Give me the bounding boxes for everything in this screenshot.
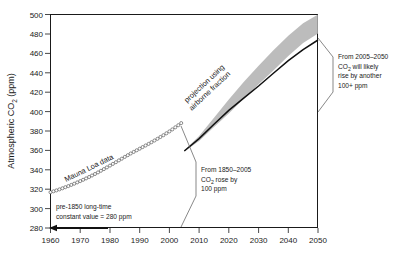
y-tick-label-440: 440	[30, 69, 44, 78]
middle-callout-line3: 100 ppm	[201, 185, 227, 193]
baseline-callout-line1: pre-1850 long-time	[56, 203, 112, 211]
y-axis-title-pre: Atmospheric CO	[6, 103, 16, 169]
y-axis-title-post: (ppm)	[6, 73, 16, 99]
y-tick-label-400: 400	[30, 108, 44, 117]
y-tick-label-420: 420	[30, 88, 44, 97]
y-tick-label-300: 300	[30, 205, 44, 214]
x-tick-label-2040: 2040	[279, 236, 297, 245]
right-callout-line4: 100+ ppm	[338, 82, 368, 90]
x-tick-label-1980: 1980	[101, 236, 119, 245]
middle-callout-line1: From 1850–2005	[201, 166, 252, 173]
y-tick-label-360: 360	[30, 146, 44, 155]
right-callout-line2-post: will likely	[351, 63, 379, 71]
y-tick-label-340: 340	[30, 166, 44, 175]
baseline-callout-line2: constant value = 280 ppm	[56, 213, 132, 221]
y-tick-label-460: 460	[30, 49, 44, 58]
y-axis-title: Atmospheric CO2 (ppm)	[6, 73, 18, 169]
y-tick-label-320: 320	[30, 185, 44, 194]
co2-projection-chart: 500 480 460 440 420 400 380 360 340 320 …	[0, 0, 402, 257]
right-callout-line1: From 2005–2050	[338, 53, 389, 60]
middle-callout-line2-post: rose by	[214, 176, 238, 184]
y-tick-label-280: 280	[30, 224, 44, 233]
x-tick-label-2030: 2030	[250, 236, 268, 245]
y-tick-label-480: 480	[30, 30, 44, 39]
mauna-loa-transition-markers	[183, 150, 186, 153]
middle-callout-line2-pre: CO	[201, 176, 211, 183]
x-tick-label-2010: 2010	[190, 236, 208, 245]
y-tick-label-380: 380	[30, 127, 44, 136]
right-callout-line2-pre: CO	[338, 63, 348, 70]
svg-text:Atmospheric CO2 (ppm): Atmospheric CO2 (ppm)	[6, 73, 18, 169]
y-tick-label-500: 500	[30, 11, 44, 20]
right-callout-line3: rise by another	[338, 72, 382, 80]
x-tick-label-2000: 2000	[161, 236, 179, 245]
x-tick-label-2020: 2020	[220, 236, 238, 245]
x-tick-label-1970: 1970	[71, 236, 89, 245]
x-tick-label-1990: 1990	[131, 236, 149, 245]
x-tick-label-2050: 2050	[309, 236, 327, 245]
x-tick-label-1960: 1960	[42, 236, 60, 245]
